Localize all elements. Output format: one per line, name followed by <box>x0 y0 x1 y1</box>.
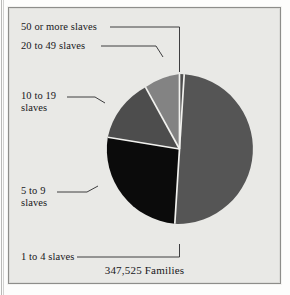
slice-label-5-to-9: 5 to 9 slaves <box>21 185 47 208</box>
slice-label-20-to-49: 20 to 49 slaves <box>21 40 85 52</box>
leader-line-20-to-49 <box>101 46 163 57</box>
slice-label-50-or-more: 50 or more slaves <box>21 21 97 33</box>
pie-chart: 50 or more slaves 20 to 49 slaves 10 to … <box>9 8 280 283</box>
pie-slice-1-to-4[interactable] <box>175 74 253 224</box>
scan-edge-rule-outer <box>1 0 2 295</box>
scan-edge-rule-inner <box>3 0 4 295</box>
slice-label-1-to-4: 1 to 4 slaves <box>21 251 75 263</box>
chart-caption: 347,525 Families <box>9 264 280 276</box>
leader-line-1-to-4 <box>77 244 180 257</box>
leader-line-50-or-more <box>110 27 180 72</box>
leader-line-10-to-19 <box>67 97 105 103</box>
chart-frame: 50 or more slaves 20 to 49 slaves 10 to … <box>8 7 281 284</box>
figure: 50 or more slaves 20 to 49 slaves 10 to … <box>0 0 290 295</box>
slice-label-10-to-19: 10 to 19 slaves <box>21 90 56 113</box>
pie-slice-5-to-9[interactable] <box>107 137 180 224</box>
leader-line-5-to-9 <box>57 186 98 192</box>
